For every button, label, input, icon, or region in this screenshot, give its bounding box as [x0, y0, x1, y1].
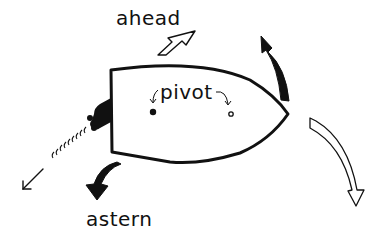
ahead-arrow-icon [158, 31, 195, 55]
pivot-pointer-left-icon [150, 90, 158, 103]
wash-arrow-icon [23, 169, 43, 189]
propeller-icon [87, 98, 111, 131]
pivot-point-astern [150, 109, 156, 115]
pivot-point-ahead [229, 112, 233, 116]
astern-label: astern [86, 207, 152, 231]
bow-swing-down-arrow-icon [310, 118, 364, 206]
pivot-label: pivot [160, 80, 213, 104]
propeller-wash [52, 127, 86, 158]
pivot-diagram [0, 0, 382, 239]
pivot-pointer-right-icon [216, 92, 231, 105]
astern-arrow-icon [86, 162, 121, 200]
ahead-label: ahead [116, 6, 181, 30]
